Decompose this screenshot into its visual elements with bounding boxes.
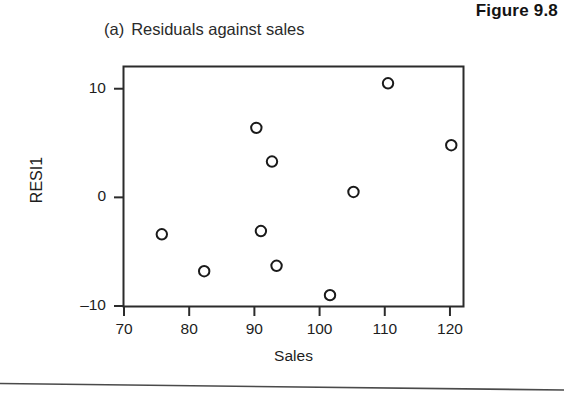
data-point <box>325 290 335 300</box>
data-point-group <box>157 78 457 300</box>
data-point <box>157 229 167 239</box>
data-point <box>199 266 209 276</box>
x-tick-label: 100 <box>290 320 350 338</box>
y-tick-label: –10 <box>46 296 106 314</box>
x-tick-label: 70 <box>94 320 154 338</box>
plot-frame <box>124 67 464 307</box>
x-tick-label: 120 <box>420 320 480 338</box>
data-point <box>446 140 456 150</box>
data-point <box>348 187 358 197</box>
x-tick-label: 110 <box>355 320 415 338</box>
x-axis-title: Sales <box>123 347 464 365</box>
y-tick-label: 0 <box>46 187 106 205</box>
x-tick-label: 90 <box>224 320 284 338</box>
data-point <box>251 123 261 133</box>
y-tick-label: 10 <box>46 79 106 97</box>
data-point <box>256 226 266 236</box>
scatter-plot: RESI1 Sales 100–10 708090100110120 <box>0 0 564 403</box>
data-point <box>267 156 277 166</box>
data-point <box>271 261 281 271</box>
data-point <box>383 78 393 88</box>
page-bottom-rule <box>0 380 564 394</box>
y-axis-title: RESI1 <box>28 130 46 230</box>
x-tick-label: 80 <box>159 320 219 338</box>
